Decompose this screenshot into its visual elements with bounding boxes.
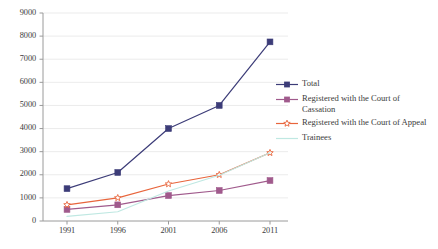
- data-point-marker: [267, 39, 273, 45]
- x-tick-label: 1996: [110, 227, 126, 235]
- y-tick-label: 9000: [20, 9, 36, 17]
- data-point-marker: [64, 186, 70, 192]
- y-tick-label: 7000: [20, 55, 36, 63]
- x-axis: 19911996200120062011: [43, 227, 288, 245]
- chart-legend: TotalRegistered with the Court of Cassat…: [276, 78, 436, 147]
- data-point-marker: [216, 188, 222, 194]
- data-point-marker: [267, 178, 273, 184]
- data-point-marker: [166, 126, 172, 132]
- y-tick-label: 1000: [20, 194, 36, 202]
- data-point-marker: [216, 103, 222, 109]
- legend-label: Total: [302, 78, 320, 89]
- legend-marker-icon: [276, 133, 298, 144]
- plot-area: [43, 13, 288, 221]
- legend-label: Registered with the Court of Appeal: [302, 117, 426, 128]
- x-tick-label: 1991: [59, 227, 75, 235]
- data-point-marker: [115, 202, 121, 208]
- x-tick-label: 2011: [262, 227, 278, 235]
- legend-item[interactable]: Total: [276, 78, 436, 90]
- legend-marker-icon: [276, 79, 298, 90]
- data-point-marker: [115, 170, 121, 176]
- y-tick-label: 4000: [20, 124, 36, 132]
- plot-svg: [43, 13, 288, 221]
- y-tick-label: 3000: [20, 147, 36, 155]
- data-point-marker: [165, 181, 171, 187]
- legend-label: Registered with the Court of Cassation: [302, 93, 428, 114]
- series-registered-with-the-court-of-appeal: [64, 149, 273, 207]
- y-axis: 0100020003000400050006000700080009000: [0, 13, 36, 221]
- y-tick-label: 2000: [20, 170, 36, 178]
- y-tick-label: 5000: [20, 101, 36, 109]
- legend-label: Trainees: [302, 132, 331, 143]
- data-point-marker: [115, 194, 121, 200]
- y-tick-label: 0: [32, 217, 36, 225]
- legend-marker-icon: [276, 94, 298, 105]
- legend-marker-icon: [276, 118, 298, 129]
- y-tick-label: 6000: [20, 78, 36, 86]
- legend-item[interactable]: Trainees: [276, 132, 436, 144]
- legend-item[interactable]: Registered with the Court of Appeal: [276, 117, 436, 129]
- x-tick-label: 2006: [211, 227, 227, 235]
- x-tick-label: 2001: [160, 227, 176, 235]
- data-point-marker: [166, 193, 172, 199]
- y-tick-label: 8000: [20, 32, 36, 40]
- legend-item[interactable]: Registered with the Court of Cassation: [276, 93, 436, 114]
- series-total: [64, 39, 273, 192]
- line-chart: 0100020003000400050006000700080009000 19…: [0, 0, 438, 249]
